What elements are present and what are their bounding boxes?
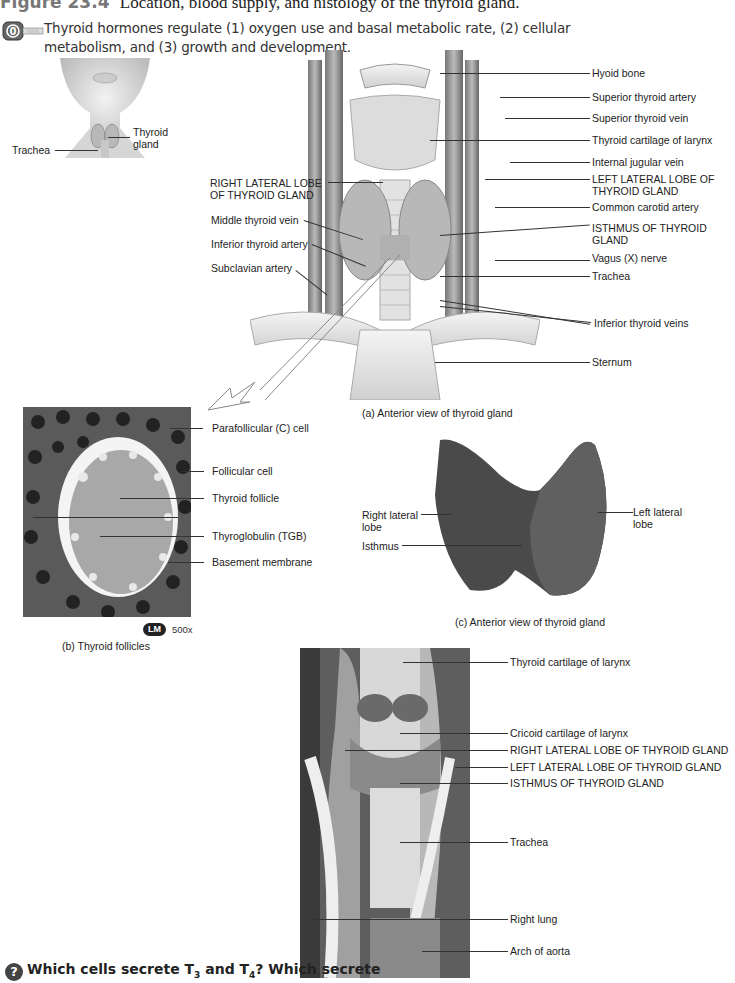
leader-line (168, 562, 204, 563)
leader-line (495, 207, 590, 208)
label-arch-of-aorta: Arch of aorta (510, 945, 570, 957)
question-icon: ? (5, 963, 23, 981)
thyroid-gland-photo (430, 435, 620, 605)
question-text: Which cells secrete T (27, 961, 194, 977)
figure-title-text: Location, blood supply, and histology of… (120, 0, 520, 12)
leader-line (505, 118, 590, 119)
leader-line (435, 362, 590, 363)
label-thyroid-cartilage-d: Thyroid cartilage of larynx (510, 656, 630, 668)
leader-line (402, 545, 522, 546)
leader-line (500, 97, 590, 98)
leader-line (312, 919, 508, 920)
leader-line (495, 260, 590, 261)
label-isthmus: ISTHMUS OF THYROID GLAND (592, 222, 732, 246)
label-basement-membrane: Basement membrane (212, 556, 312, 568)
label-internal-jugular-vein: Internal jugular vein (592, 156, 684, 168)
leader-line (485, 179, 590, 180)
label-left-lateral-lobe: LEFT LATERAL LOBE OF THYROID GLAND (592, 173, 732, 197)
leader-line (108, 137, 130, 138)
leader-line (455, 767, 508, 768)
label-subclavian-artery: Subclavian artery (211, 262, 292, 274)
label-thyroid-cartilage: Thyroid cartilage of larynx (592, 134, 712, 146)
figure-title: Figure 23.4 Location, blood supply, and … (0, 0, 520, 13)
callout-arrow (200, 380, 260, 420)
label-trachea-d: Trachea (510, 836, 548, 848)
leader-line (422, 951, 508, 952)
leader-line (120, 498, 204, 499)
leader-line (421, 514, 451, 515)
figure-number: Figure 23.4 (0, 0, 110, 12)
leader-line (440, 73, 590, 74)
question-text: ? Which secrete (255, 961, 380, 977)
review-question: ?Which cells secrete T3 and T4? Which se… (5, 961, 380, 981)
label-right-lateral-lobe-d: RIGHT LATERAL LOBE OF THYROID GLAND (510, 744, 728, 756)
caption-panel-c: (c) Anterior view of thyroid gland (455, 616, 605, 628)
label-trachea: Trachea (592, 270, 630, 282)
leader-line (100, 536, 204, 537)
leader-line (345, 750, 508, 751)
cadaver-dissection-photo (300, 648, 470, 978)
label-parafollicular-cell: Parafollicular (C) cell (212, 422, 309, 434)
label-thyroid-follicle: Thyroid follicle (212, 492, 279, 504)
label-trachea-inset: Trachea (12, 144, 50, 156)
leader-line (400, 842, 508, 843)
label-isthmus-photo: Isthmus (362, 540, 399, 552)
leader-line (400, 783, 508, 784)
lm-badge: LM (143, 623, 166, 636)
magnification: 500x (172, 624, 193, 635)
leader-line (328, 182, 383, 183)
leader-line (182, 471, 204, 472)
label-inferior-thyroid-artery: Inferior thyroid artery (211, 238, 308, 250)
leader-line (33, 517, 178, 518)
label-hyoid-bone: Hyoid bone (592, 67, 645, 79)
label-middle-thyroid-vein: Middle thyroid vein (211, 214, 299, 226)
label-superior-thyroid-artery: Superior thyroid artery (592, 91, 696, 103)
leader-line (430, 140, 590, 141)
label-right-lateral-lobe: RIGHT LATERAL LOBE OF THYROID GLAND (210, 177, 330, 201)
label-right-lung: Right lung (510, 913, 557, 925)
leader-line (400, 733, 508, 734)
leader-line (440, 276, 590, 277)
label-sternum: Sternum (592, 356, 632, 368)
label-thyroglobulin: Thyroglobulin (TGB) (212, 530, 307, 542)
label-superior-thyroid-vein: Superior thyroid vein (592, 112, 688, 124)
label-follicular-cell: Follicular cell (212, 465, 273, 477)
svg-text:0: 0 (10, 26, 17, 37)
label-vagus-nerve: Vagus (X) nerve (592, 252, 667, 264)
caption-panel-b: (b) Thyroid follicles (62, 640, 150, 652)
leader-line (55, 150, 98, 151)
label-left-lateral-lobe-d: LEFT LATERAL LOBE OF THYROID GLAND (510, 761, 721, 773)
label-inferior-thyroid-veins: Inferior thyroid veins (594, 317, 689, 329)
caption-panel-a: (a) Anterior view of thyroid gland (362, 407, 513, 419)
thyroid-follicle-micrograph (23, 407, 191, 617)
leader-line (403, 662, 508, 663)
label-cricoid-cartilage: Cricoid cartilage of larynx (510, 727, 628, 739)
leader-line (598, 512, 633, 513)
label-right-lateral-lobe-photo: Right lateral lobe (362, 509, 422, 533)
label-isthmus-d: ISTHMUS OF THYROID GLAND (510, 777, 664, 789)
label-left-lateral-lobe-photo: Left lateral lobe (633, 506, 693, 530)
label-thyroid-gland: Thyroid gland (133, 126, 193, 150)
label-common-carotid-artery: Common carotid artery (592, 201, 699, 213)
leader-line (170, 428, 203, 429)
leader-line (510, 162, 590, 163)
question-text: and T (200, 961, 249, 977)
